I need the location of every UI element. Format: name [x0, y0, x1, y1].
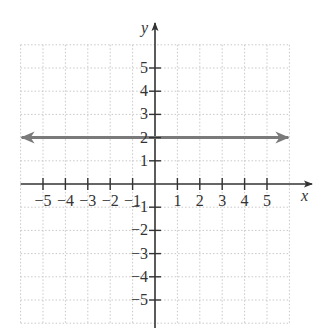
y-tick-label: −2 — [131, 221, 148, 238]
x-tick-label: 2 — [196, 192, 204, 209]
x-tick-label: −5 — [34, 192, 51, 209]
x-tick-label: −3 — [79, 192, 96, 209]
y-tick-label: −3 — [131, 245, 148, 262]
x-tick-label: 4 — [241, 192, 249, 209]
y-tick-label: −5 — [131, 291, 148, 308]
coordinate-plane: xy−5−4−3−2−112345−5−4−3−2−112345 — [0, 0, 320, 332]
y-tick-label: 5 — [140, 59, 148, 76]
y-tick-label: −1 — [131, 198, 148, 215]
x-tick-label: −4 — [57, 192, 74, 209]
x-tick-label: 3 — [218, 192, 226, 209]
x-tick-label: 1 — [173, 192, 181, 209]
x-tick-label: 5 — [263, 192, 271, 209]
x-tick-label: −2 — [102, 192, 119, 209]
y-tick-label: 1 — [140, 152, 148, 169]
y-axis-label: y — [139, 19, 149, 37]
x-axis-label: x — [300, 187, 308, 204]
y-tick-label: 2 — [140, 129, 148, 146]
y-tick-label: 3 — [140, 105, 148, 122]
y-tick-label: −4 — [131, 268, 148, 285]
y-tick-label: 4 — [140, 82, 148, 99]
axes — [21, 23, 312, 328]
